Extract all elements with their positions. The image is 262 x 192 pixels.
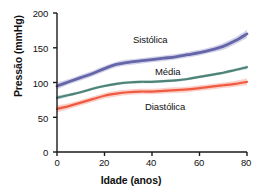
plot-area bbox=[0, 0, 262, 192]
blood-pressure-vs-age-chart: Pressão (mmHg) Idade (anos) 200 150 100 … bbox=[0, 0, 262, 192]
series-annotation-media: Média bbox=[155, 66, 180, 77]
series-annotation-sistolica: Sistólica bbox=[133, 34, 167, 45]
series-annotation-diastolica: Diastólica bbox=[145, 101, 185, 112]
